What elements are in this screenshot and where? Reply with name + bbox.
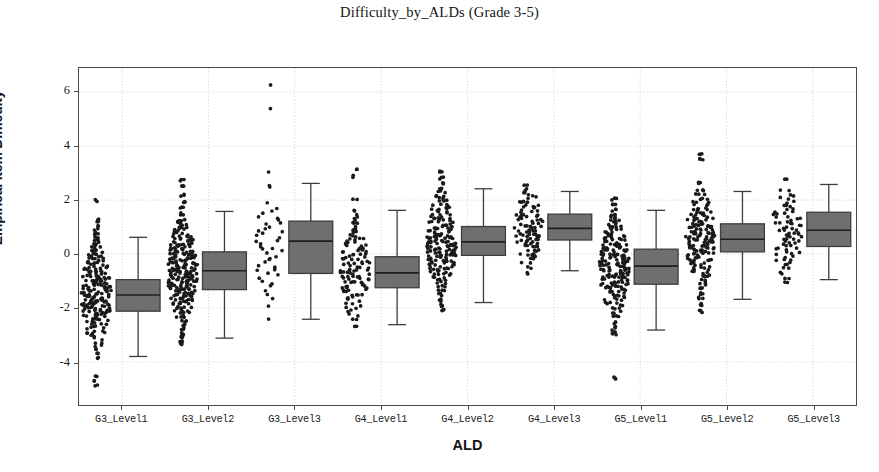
box-G4_Level2 <box>462 189 506 303</box>
box-G4_Level1 <box>375 210 419 324</box>
x-tick-mark <box>294 406 295 410</box>
plot-area <box>78 67 857 406</box>
box-G5_Level3 <box>807 184 851 279</box>
y-tick-label: -2 <box>34 300 70 315</box>
y-tick-label: -4 <box>34 355 70 370</box>
x-tick-mark <box>554 406 555 410</box>
y-tick-label: 4 <box>34 138 70 153</box>
strip-points-G3_Level3 <box>254 83 284 321</box>
y-axis-label: Empirical Item Difficulty <box>0 0 5 348</box>
strip-points-G4_Level2 <box>425 169 458 312</box>
strip-points-G3_Level1 <box>80 198 113 388</box>
x-tick-mark <box>641 406 642 410</box>
x-tick-mark <box>208 406 209 410</box>
x-axis-label: ALD <box>78 437 857 453</box>
box-G3_Level1 <box>116 237 160 356</box>
x-tick-label-G5_Level3: G5_Level3 <box>759 414 869 425</box>
strip-points-G3_Level2 <box>167 178 200 347</box>
box-G4_Level3 <box>548 191 592 270</box>
boxplot-data-layer <box>79 68 856 405</box>
y-tick-label: 6 <box>34 83 70 98</box>
x-tick-mark <box>121 406 122 410</box>
strip-points-G4_Level3 <box>513 183 545 276</box>
y-tick-label: 2 <box>34 192 70 207</box>
strip-points-G5_Level3 <box>772 177 804 284</box>
x-tick-mark <box>468 406 469 410</box>
strip-points-G5_Level2 <box>684 152 716 314</box>
x-tick-mark <box>814 406 815 410</box>
chart-figure: Difficulty_by_ALDs (Grade 3-5) Empirical… <box>0 0 879 472</box>
box-G5_Level2 <box>721 191 765 299</box>
box-G3_Level2 <box>203 211 247 338</box>
strip-points-G4_Level1 <box>339 167 372 328</box>
strip-points-G5_Level1 <box>598 196 631 381</box>
y-tick-label: 0 <box>34 246 70 261</box>
x-tick-mark <box>727 406 728 410</box>
x-tick-mark <box>381 406 382 410</box>
box-G5_Level1 <box>634 210 678 330</box>
box-G3_Level3 <box>289 183 333 319</box>
chart-title: Difficulty_by_ALDs (Grade 3-5) <box>0 4 879 21</box>
